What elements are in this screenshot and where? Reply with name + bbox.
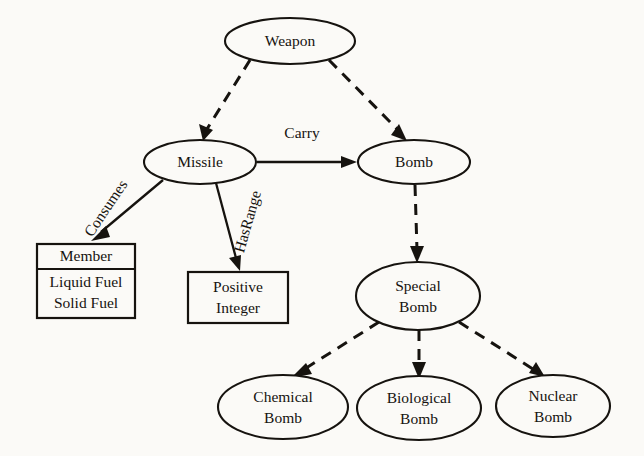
node-special-bomb-shape[interactable] (356, 262, 480, 330)
edge-weapon-missile (199, 60, 250, 141)
node-missile[interactable]: Missile (144, 140, 256, 184)
box-member-header: Member (60, 247, 113, 264)
node-special-bomb-label-line2: Bomb (399, 298, 437, 315)
edge-special-nuclear-line (459, 322, 533, 369)
edge-special-biological (412, 330, 426, 379)
edge-missile-bomb: Carry (257, 124, 357, 168)
node-nuclear-bomb-label-line2: Bomb (534, 408, 572, 425)
edge-weapon-bomb-arrowhead (391, 124, 407, 141)
node-biological-bomb[interactable]: Biological Bomb (357, 376, 481, 440)
node-special-bomb[interactable]: Special Bomb (356, 262, 480, 330)
node-nuclear-bomb-shape[interactable] (496, 375, 610, 437)
box-positive-integer-row-1: Integer (216, 299, 261, 316)
node-bomb-label: Bomb (395, 153, 433, 170)
edge-special-nuclear (459, 322, 545, 377)
edge-missile-member: Consumes (80, 176, 163, 241)
edge-weapon-bomb-line (329, 60, 398, 130)
diagram-canvas: Carry Consumes HasRange (0, 0, 644, 456)
node-missile-label: Missile (177, 153, 223, 170)
box-member[interactable]: Member Liquid Fuel Solid Fuel (37, 244, 135, 318)
node-bomb[interactable]: Bomb (358, 140, 470, 184)
edge-weapon-bomb (329, 60, 407, 141)
node-biological-bomb-label-line2: Bomb (400, 410, 438, 427)
box-member-row-1: Solid Fuel (54, 294, 118, 311)
edge-bomb-special-bomb (410, 185, 424, 263)
node-chemical-bomb-label-line1: Chemical (253, 388, 312, 405)
edge-special-chemical (291, 322, 379, 378)
edge-missile-bomb-arrowhead (341, 156, 357, 168)
edge-bomb-special-bomb-line (415, 185, 417, 250)
node-nuclear-bomb[interactable]: Nuclear Bomb (496, 375, 610, 437)
node-chemical-bomb[interactable]: Chemical Bomb (218, 375, 348, 439)
node-nuclear-bomb-label-line1: Nuclear (528, 387, 578, 404)
box-member-row-0: Liquid Fuel (50, 273, 123, 290)
node-special-bomb-label-line1: Special (395, 277, 441, 294)
box-positive-integer-row-0: Positive (213, 278, 263, 295)
box-positive-integer[interactable]: Positive Integer (188, 272, 288, 323)
edge-weapon-missile-arrowhead (199, 124, 213, 141)
node-biological-bomb-shape[interactable] (357, 376, 481, 440)
diagram-svg: Carry Consumes HasRange (0, 0, 644, 456)
edge-missile-positive-integer: HasRange (216, 183, 264, 271)
edge-bomb-special-bomb-arrowhead (410, 246, 424, 263)
node-biological-bomb-label-line1: Biological (387, 389, 452, 406)
edge-weapon-missile-line (207, 60, 250, 129)
edge-label-carry: Carry (284, 124, 320, 141)
node-weapon[interactable]: Weapon (225, 18, 355, 64)
node-chemical-bomb-label-line2: Bomb (264, 409, 302, 426)
node-weapon-label: Weapon (265, 32, 316, 49)
edge-special-chemical-line (303, 322, 379, 370)
edge-label-hasrange: HasRange (230, 188, 264, 254)
edge-missile-positive-integer-arrowhead (229, 255, 241, 271)
node-chemical-bomb-shape[interactable] (218, 375, 348, 439)
